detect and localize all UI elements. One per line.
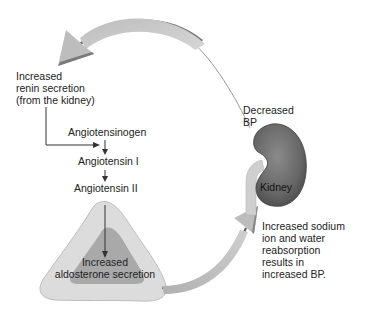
- outcome-label: Increased sodium ion and water reabsorpt…: [262, 220, 345, 280]
- renin-secretion-label: Increased renin secretion (from the kidn…: [16, 70, 95, 106]
- outcome-line-1: Increased sodium: [262, 220, 345, 232]
- angiotensin-2-label: Angiotensin II: [74, 182, 138, 194]
- decreased-bp-line-2: BP: [243, 116, 294, 128]
- decreased-bp-line-1: Decreased: [243, 104, 294, 116]
- renin-line-2: renin secretion: [16, 82, 95, 94]
- outcome-line-4: results in: [262, 256, 345, 268]
- decreased-bp-label: Decreased BP: [243, 104, 294, 128]
- aldosterone-secretion-label: Increased aldosterone secretion: [44, 256, 166, 280]
- outcome-line-5: increased BP.: [262, 268, 345, 280]
- raas-diagram: Increased renin secretion (from the kidn…: [0, 0, 366, 315]
- adrenal-gland-icon: [40, 202, 166, 302]
- renin-line-3: (from the kidney): [16, 94, 95, 106]
- outcome-line-3: reabsorption: [262, 244, 345, 256]
- curved-arrow-aldosterone-to-kidney-icon: [162, 206, 258, 294]
- angiotensinogen-label: Angiotensinogen: [68, 126, 146, 138]
- arrow-angiotensinogen-to-angiotensin1-icon: [102, 140, 108, 155]
- aldosterone-line-1: Increased: [44, 256, 166, 268]
- outcome-line-2: ion and water: [262, 232, 345, 244]
- kidney-label: Kidney: [260, 181, 292, 193]
- arrow-angiotensin1-to-angiotensin2-icon: [102, 170, 108, 182]
- renin-line-1: Increased: [16, 70, 95, 82]
- angiotensin-1-label: Angiotensin I: [78, 155, 139, 167]
- aldosterone-line-2: aldosterone secretion: [44, 268, 166, 280]
